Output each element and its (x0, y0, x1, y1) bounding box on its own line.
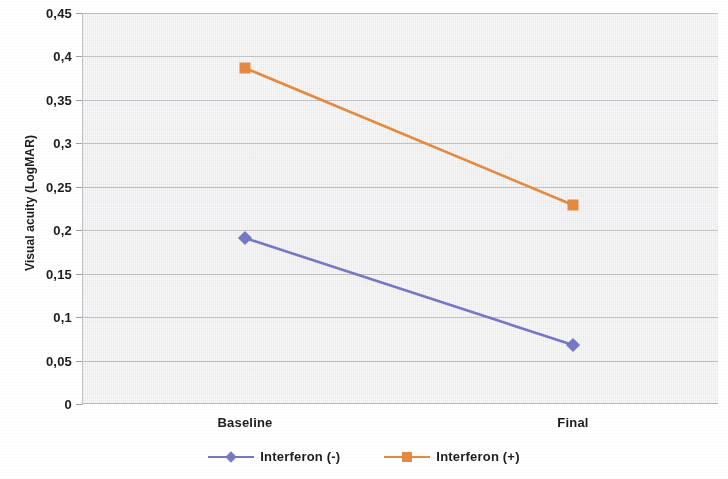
y-tick-label-0.25: 0,25 (6, 181, 72, 194)
y-tick-0.1 (76, 317, 82, 318)
gridline-0.2 (82, 230, 718, 231)
legend-label-interferon-positive: Interferon (+) (436, 449, 519, 464)
y-tick-label-0.4: 0,4 (6, 50, 72, 63)
plot-background-texture (82, 13, 718, 404)
gridline-0.35 (82, 100, 718, 101)
x-tick-label-baseline: Baseline (165, 415, 325, 430)
y-tick-label-0.05: 0,05 (6, 355, 72, 368)
legend-item-interferon-negative[interactable]: Interferon (-) (208, 449, 340, 464)
square-marker-icon (384, 450, 430, 464)
gridline-0.4 (82, 56, 718, 57)
diamond-marker-icon (208, 450, 254, 464)
y-tick-0.35 (76, 100, 82, 101)
gridline-0.3 (82, 143, 718, 144)
y-tick-0.25 (76, 187, 82, 188)
y-tick-label-0.45: 0,45 (6, 7, 72, 20)
y-tick-label-0: 0 (6, 398, 72, 411)
y-tick-0.2 (76, 230, 82, 231)
gridline-0.15 (82, 274, 718, 275)
y-tick-label-0.3: 0,3 (6, 137, 72, 150)
y-tick-0.05 (76, 361, 82, 362)
gridline-0.1 (82, 317, 718, 318)
y-tick-0 (76, 404, 82, 405)
y-tick-label-0.1: 0,1 (6, 311, 72, 324)
legend-item-interferon-positive[interactable]: Interferon (+) (384, 449, 519, 464)
gridline-0 (82, 403, 718, 404)
chart-legend: Interferon (-) Interferon (+) (0, 449, 728, 464)
y-tick-0.45 (76, 13, 82, 14)
plot-area (82, 13, 718, 404)
gridline-0.25 (82, 187, 718, 188)
y-tick-0.15 (76, 274, 82, 275)
y-axis-line (82, 13, 83, 405)
y-tick-label-0.35: 0,35 (6, 94, 72, 107)
y-tick-label-0.2: 0,2 (6, 224, 72, 237)
y-axis-title: Visual acuity (LogMAR) (23, 88, 37, 318)
gridline-0.05 (82, 361, 718, 362)
y-tick-0.3 (76, 143, 82, 144)
x-tick-label-final: Final (493, 415, 653, 430)
line-chart: 0,45 0,4 0,35 0,3 0,25 0,2 0,15 0,1 0,05… (0, 0, 728, 479)
y-tick-label-0.15: 0,15 (6, 268, 72, 281)
legend-label-interferon-negative: Interferon (-) (260, 449, 340, 464)
gridline-0.45 (82, 13, 718, 14)
y-tick-0.4 (76, 56, 82, 57)
